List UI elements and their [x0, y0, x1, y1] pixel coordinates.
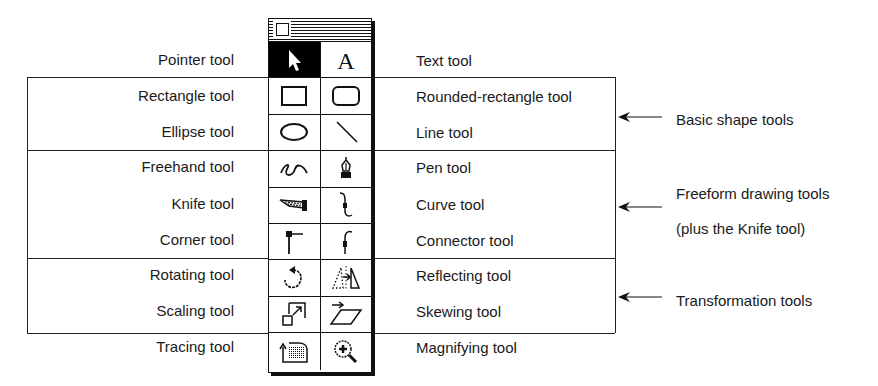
label-ellipse-tool: Ellipse tool: [24, 123, 234, 141]
skewing-tool-button[interactable]: [321, 297, 372, 332]
label-corner-tool: Corner tool: [24, 231, 234, 249]
corner-icon: [277, 228, 311, 256]
palette-title-bar[interactable]: [269, 19, 371, 42]
label-rotating-tool: Rotating tool: [24, 266, 234, 284]
arrow-left-icon: [618, 111, 662, 123]
label-magnifying-tool: Magnifying tool: [416, 339, 517, 357]
label-connector-tool: Connector tool: [416, 232, 514, 250]
close-box-icon[interactable]: [276, 23, 289, 36]
curve-icon: [329, 191, 363, 219]
scaling-tool-button[interactable]: [269, 297, 321, 332]
line-tool-button[interactable]: [321, 115, 372, 150]
magnifying-icon: [329, 337, 363, 365]
ellipse-tool-button[interactable]: [269, 115, 321, 150]
label-scaling-tool: Scaling tool: [24, 302, 234, 320]
freehand-tool-button[interactable]: [269, 151, 321, 186]
line-icon: [329, 118, 363, 146]
reflecting-tool-button[interactable]: [321, 260, 372, 295]
rounded-rectangle-tool-button[interactable]: [321, 78, 372, 113]
arrow-left-icon: [618, 291, 662, 303]
ellipse-icon: [277, 118, 311, 146]
arrow-left-icon: [618, 201, 662, 213]
pen-icon: [329, 155, 363, 183]
label-knife-tool: Knife tool: [24, 195, 234, 213]
rounded-rectangle-icon: [329, 82, 363, 110]
scaling-icon: [277, 300, 311, 328]
corner-tool-button[interactable]: [269, 224, 321, 259]
knife-icon: [277, 191, 311, 219]
group-label-basic-shapes: Basic shape tools: [676, 111, 794, 129]
label-text-tool: Text tool: [416, 52, 472, 70]
group-bracket-right: [615, 77, 616, 333]
text-icon: A: [329, 46, 363, 74]
tracing-icon: [277, 337, 311, 365]
tool-grid: A: [269, 42, 371, 370]
label-skewing-tool: Skewing tool: [416, 303, 501, 321]
group-label-freeform: Freeform drawing tools: [676, 185, 829, 203]
label-curve-tool: Curve tool: [416, 196, 484, 214]
label-rounded-rectangle-tool: Rounded-rectangle tool: [416, 88, 572, 106]
label-pen-tool: Pen tool: [416, 159, 471, 177]
label-rectangle-tool: Rectangle tool: [24, 87, 234, 105]
tracing-tool-button[interactable]: [269, 333, 321, 369]
knife-tool-button[interactable]: [269, 188, 321, 223]
label-tracing-tool: Tracing tool: [24, 338, 234, 356]
connector-icon: [329, 228, 363, 256]
rectangle-tool-button[interactable]: [269, 78, 321, 113]
label-pointer-tool: Pointer tool: [24, 51, 234, 69]
text-tool-button[interactable]: A: [321, 42, 372, 77]
freehand-icon: [277, 155, 311, 183]
toolbox-palette: A: [268, 18, 372, 373]
pointer-icon: [277, 46, 311, 74]
label-freehand-tool: Freehand tool: [24, 158, 234, 176]
reflecting-icon: [329, 264, 363, 292]
group-sublabel-freeform: (plus the Knife tool): [676, 220, 805, 238]
pointer-tool-button[interactable]: [269, 42, 321, 77]
magnifying-tool-button[interactable]: [321, 333, 372, 369]
group-label-transformation: Transformation tools: [676, 292, 812, 310]
skewing-icon: [329, 300, 363, 328]
pen-tool-button[interactable]: [321, 151, 372, 186]
rotating-icon: [277, 264, 311, 292]
connector-tool-button[interactable]: [321, 224, 372, 259]
svg-text:A: A: [337, 48, 355, 74]
rectangle-icon: [277, 82, 311, 110]
rotating-tool-button[interactable]: [269, 260, 321, 295]
label-reflecting-tool: Reflecting tool: [416, 267, 511, 285]
label-line-tool: Line tool: [416, 124, 473, 142]
curve-tool-button[interactable]: [321, 188, 372, 223]
